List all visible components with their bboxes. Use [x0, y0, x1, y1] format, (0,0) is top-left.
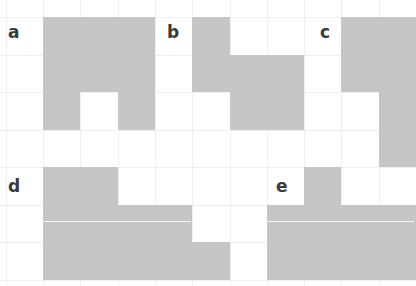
shape-a-cell [43, 17, 80, 55]
shape-d-cell [192, 242, 230, 280]
shape-e-cell [379, 242, 416, 280]
shape-e-cell [304, 242, 341, 280]
shape-d-cell [155, 242, 192, 280]
grid-line-vertical [230, 0, 231, 286]
shape-e-seam [266, 221, 414, 222]
shape-c-cell [379, 17, 416, 55]
shape-b-cell [192, 17, 230, 55]
shape-c-cell [341, 17, 379, 55]
shape-a-cell [80, 17, 118, 55]
shape-d-seam [43, 221, 191, 222]
shape-b-cell [230, 92, 267, 130]
shape-d-cell [118, 242, 155, 280]
shape-b-cell [192, 55, 230, 92]
shape-e-cell [267, 205, 304, 242]
shape-e-cell [304, 167, 341, 205]
shape-d-cell [118, 205, 155, 242]
shape-d-cell [43, 205, 80, 242]
shape-d-cell [80, 205, 118, 242]
shape-e-cell [341, 242, 379, 280]
shape-d-cell [155, 205, 192, 242]
shape-d-cell [80, 242, 118, 280]
shape-c-cell [341, 55, 379, 92]
panel-label-b: b [167, 24, 179, 41]
grid-canvas [0, 0, 416, 286]
panel-label-c: c [320, 24, 330, 41]
shape-b-cell [230, 55, 267, 92]
grid-line-horizontal [0, 130, 416, 131]
shape-a-cell [80, 55, 118, 92]
shape-c-cell [379, 130, 416, 167]
shape-e-cell [341, 205, 379, 242]
shape-d-cell [80, 167, 118, 205]
grid-line-horizontal [0, 280, 416, 281]
shape-c-cell [379, 55, 416, 92]
shape-a-cell [118, 17, 155, 55]
panel-label-e: e [276, 178, 288, 195]
shape-d-cell [43, 242, 80, 280]
shape-b-cell [267, 92, 304, 130]
panel-label-a: a [8, 24, 19, 41]
shape-a-cell [118, 92, 155, 130]
shape-e-cell [379, 205, 416, 242]
panel-label-d: d [8, 178, 20, 195]
shape-a-cell [43, 55, 80, 92]
shape-e-cell [304, 205, 341, 242]
shape-c-cell [379, 92, 416, 130]
shape-a-cell [118, 55, 155, 92]
shape-e-cell [267, 242, 304, 280]
grid-line-vertical [6, 0, 7, 286]
shape-b-cell [267, 55, 304, 92]
shape-d-cell [43, 167, 80, 205]
shape-a-cell [43, 92, 80, 130]
